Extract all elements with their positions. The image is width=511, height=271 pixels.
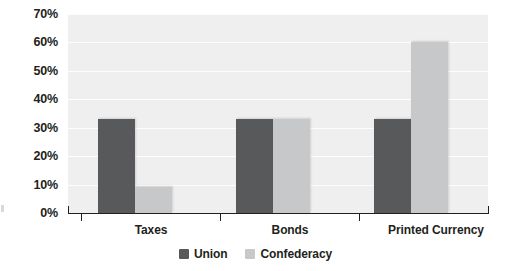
bar-chart-figure: 70% 60% 50% 40% 30% 20% 10% 0% Taxes Bon… — [0, 0, 511, 271]
legend-label: Confederacy — [260, 247, 332, 261]
x-axis-tick — [359, 213, 360, 221]
x-axis-end-cap — [488, 206, 489, 214]
x-axis-category-label: Bonds — [237, 223, 343, 237]
x-axis-line — [68, 213, 488, 214]
chart-legend: Union Confederacy — [0, 247, 511, 261]
bar-confederacy-taxes — [135, 187, 172, 213]
legend-item-confederacy: Confederacy — [245, 247, 332, 261]
y-axis-tick-label: 40% — [34, 93, 58, 106]
legend-label: Union — [194, 247, 228, 261]
bar-layer — [68, 14, 488, 213]
legend-swatch-icon — [179, 249, 189, 259]
scan-artifact — [1, 205, 4, 212]
x-axis-tick — [81, 213, 82, 221]
y-axis: 70% 60% 50% 40% 30% 20% 10% 0% — [0, 0, 66, 214]
bar-confederacy-printed-currency — [411, 42, 448, 213]
x-axis-category-label: Printed Currency — [376, 223, 496, 237]
bar-union-printed-currency — [374, 119, 411, 213]
x-axis-category-label: Taxes — [98, 223, 204, 237]
y-axis-tick-label: 30% — [34, 121, 58, 134]
x-axis-tick — [220, 213, 221, 221]
y-axis-tick-label: 0% — [40, 207, 58, 220]
bar-union-bonds — [236, 119, 273, 213]
legend-item-union: Union — [179, 247, 228, 261]
y-axis-tick-label: 50% — [34, 65, 58, 78]
bar-confederacy-bonds — [273, 119, 310, 213]
y-axis-tick-label: 20% — [34, 150, 58, 163]
bar-union-taxes — [98, 119, 135, 213]
y-axis-tick-label: 10% — [34, 178, 58, 191]
plot-area — [68, 14, 488, 213]
x-axis-start-cap — [68, 206, 69, 214]
y-axis-tick-label: 70% — [34, 8, 58, 21]
legend-swatch-icon — [245, 249, 255, 259]
y-axis-tick-label: 60% — [34, 36, 58, 49]
